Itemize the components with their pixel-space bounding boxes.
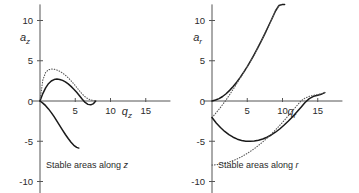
caption-symbol: r <box>296 160 299 170</box>
y-tick-label: 10 <box>22 15 33 26</box>
caption-symbol: z <box>124 160 129 170</box>
y-tick-label: 0 <box>28 96 33 107</box>
y-tick-label: -10 <box>191 176 205 187</box>
y-axis-label: ar <box>193 31 202 46</box>
y-tick-label: 0 <box>200 96 205 107</box>
series-group <box>40 69 96 148</box>
x-tick-label: 15 <box>140 105 151 116</box>
stability-diagram-figure: 510151050-5-10azqz Stable areas along z … <box>0 0 359 193</box>
x-axis-label: qz <box>122 105 132 120</box>
caption-text: Stable areas along <box>218 160 296 170</box>
series-curve-2 <box>212 93 325 142</box>
y-axis-label: az <box>20 31 30 46</box>
y-tick-label: -5 <box>197 136 205 147</box>
x-tick-label: 15 <box>312 105 323 116</box>
panel-axial: 510151050-5-10azqz Stable areas along z <box>0 0 179 193</box>
y-tick-label: 10 <box>194 15 205 26</box>
x-tick-label: 5 <box>245 105 250 116</box>
panel-radial: 510151050-5-10arqr Stable areas along r <box>179 0 359 193</box>
caption-text: Stable areas along <box>46 160 124 170</box>
x-tick-label: 10 <box>277 105 288 116</box>
y-tick-label: -5 <box>25 136 33 147</box>
x-tick-label: 10 <box>105 105 116 116</box>
series-curve-3 <box>212 93 325 165</box>
y-tick-label: -10 <box>19 176 33 187</box>
axial-caption: Stable areas along z <box>46 160 128 170</box>
x-tick-label: 5 <box>73 105 78 116</box>
series-group <box>212 4 325 165</box>
y-tick-label: 5 <box>28 55 33 66</box>
radial-caption: Stable areas along r <box>218 160 299 170</box>
y-tick-label: 5 <box>200 55 205 66</box>
series-curve-0 <box>212 4 285 101</box>
